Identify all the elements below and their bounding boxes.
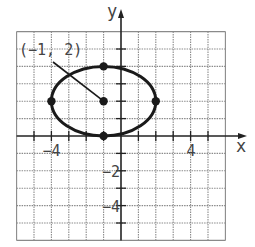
y-axis-label: y	[107, 1, 117, 21]
point-dot	[152, 97, 160, 105]
point-dot	[99, 132, 107, 140]
point-label: (−1, 2)	[19, 41, 82, 59]
point-dot	[47, 97, 55, 105]
x-tick-label: −4	[42, 142, 60, 160]
graph-canvas: −44−2−4 x y (−1, 2)	[0, 0, 255, 247]
ellipse-graph: −44−2−4 x y (−1, 2)	[0, 0, 255, 247]
x-axis-label: x	[236, 136, 246, 156]
y-tick-label: −4	[102, 198, 120, 216]
x-tick-label: 4	[187, 142, 196, 160]
point-dot	[99, 62, 107, 70]
y-tick-label: −2	[102, 163, 120, 181]
